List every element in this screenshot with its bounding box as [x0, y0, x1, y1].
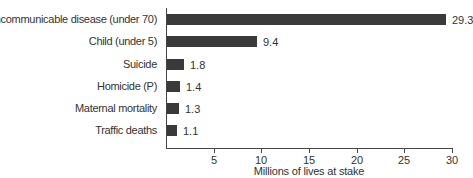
category-label: Traffic deaths	[95, 124, 157, 136]
category-label: Child (under 5)	[89, 35, 157, 47]
bar-traffic-deaths	[167, 125, 177, 136]
bar-homicide	[167, 81, 180, 92]
x-tick	[214, 148, 215, 153]
value-label: 1.3	[185, 103, 200, 115]
x-tick-label: 25	[398, 154, 410, 166]
bar-child-under-5	[167, 36, 257, 47]
x-tick	[261, 148, 262, 153]
value-label: 1.8	[190, 59, 205, 71]
value-label: 29.3	[452, 14, 473, 26]
value-label: 9.4	[263, 36, 278, 48]
value-label: 1.4	[186, 81, 201, 93]
bar-suicide	[167, 59, 184, 70]
x-tick-label: 5	[211, 154, 217, 166]
value-label: 1.1	[183, 125, 198, 137]
bar-noncommunicable-disease	[167, 14, 446, 25]
x-tick	[357, 148, 358, 153]
x-tick-label: 30	[446, 154, 458, 166]
category-label: Maternal mortality	[75, 102, 157, 114]
category-label: Suicide	[123, 58, 157, 70]
x-tick	[452, 148, 453, 153]
x-axis-title: Millions of lives at stake	[254, 165, 364, 177]
category-label: Homicide (P)	[97, 80, 157, 92]
x-tick	[404, 148, 405, 153]
bar-maternal-mortality	[167, 103, 179, 114]
category-label: Noncommunicable disease (under 70)	[0, 13, 157, 25]
x-tick	[309, 148, 310, 153]
